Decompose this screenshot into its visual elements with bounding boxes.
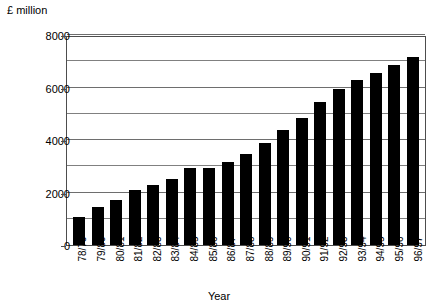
x-label-slot: 84/85 xyxy=(181,247,200,289)
bar-slot xyxy=(367,37,386,245)
bar-93-94 xyxy=(351,80,363,245)
x-label-slot: 83/84 xyxy=(162,247,181,289)
x-label-slot: 92/93 xyxy=(330,247,349,289)
x-label-slot: 93/94 xyxy=(348,247,367,289)
y-tick-mark-6000 xyxy=(61,89,66,90)
x-label-slot: 81/82 xyxy=(125,247,144,289)
bar-slot xyxy=(70,37,89,245)
bar-92-93 xyxy=(333,89,345,245)
x-label-slot: 82/83 xyxy=(144,247,163,289)
bar-91-92 xyxy=(314,102,326,245)
bar-slot xyxy=(107,37,126,245)
bar-89-90 xyxy=(277,130,289,246)
bar-slot xyxy=(237,37,256,245)
bar-84-85 xyxy=(184,168,196,245)
bar-slot xyxy=(404,37,423,245)
bar-slot xyxy=(385,37,404,245)
x-label-slot: 87/88 xyxy=(237,247,256,289)
bar-87-88 xyxy=(240,154,252,245)
bar-slot xyxy=(218,37,237,245)
x-axis-tick-labels: 78/7979/8080/8181/8282/8383/8484/8585/86… xyxy=(66,247,426,289)
x-tick-label-96-97: 96/97 xyxy=(414,236,424,261)
x-label-slot: 95/96 xyxy=(386,247,405,289)
y-tick-mark-8000 xyxy=(61,36,66,37)
x-label-slot: 91/92 xyxy=(311,247,330,289)
bar-94-95 xyxy=(370,73,382,245)
bar-90-91 xyxy=(296,118,308,245)
bar-slot xyxy=(163,37,182,245)
bar-96-97 xyxy=(407,57,419,245)
bar-slot xyxy=(311,37,330,245)
bar-slot xyxy=(292,37,311,245)
bar-slot xyxy=(144,37,163,245)
bar-slot xyxy=(348,37,367,245)
x-label-slot: 94/95 xyxy=(367,247,386,289)
x-label-slot: 96/97 xyxy=(404,247,423,289)
bar-slot xyxy=(274,37,293,245)
x-label-slot: 80/81 xyxy=(106,247,125,289)
bar-slot xyxy=(89,37,108,245)
gridline-8000 xyxy=(67,34,425,35)
bar-slot xyxy=(255,37,274,245)
x-label-slot: 79/80 xyxy=(88,247,107,289)
x-label-slot: 89/90 xyxy=(274,247,293,289)
x-label-slot: 85/86 xyxy=(199,247,218,289)
x-label-slot: 78/79 xyxy=(69,247,88,289)
bar-slot xyxy=(329,37,348,245)
y-tick-mark-2000 xyxy=(61,194,66,195)
y-axis-unit-label: £ million xyxy=(7,4,47,17)
bar-series xyxy=(67,37,425,245)
bar-83-84 xyxy=(166,179,178,245)
x-label-slot: 86/87 xyxy=(218,247,237,289)
x-label-slot: 90/91 xyxy=(293,247,312,289)
bar-slot xyxy=(200,37,219,245)
y-tick-mark-4000 xyxy=(61,141,66,142)
bar-chart: £ million 02000400060008000 78/7979/8080… xyxy=(0,0,438,308)
bar-slot xyxy=(181,37,200,245)
bar-86-87 xyxy=(222,162,234,245)
bar-85-86 xyxy=(203,168,215,245)
plot-area xyxy=(66,36,426,246)
x-axis-title: Year xyxy=(0,290,438,303)
bar-95-96 xyxy=(388,65,400,245)
bar-slot xyxy=(126,37,145,245)
bar-88-89 xyxy=(259,143,271,245)
x-label-slot: 88/89 xyxy=(255,247,274,289)
